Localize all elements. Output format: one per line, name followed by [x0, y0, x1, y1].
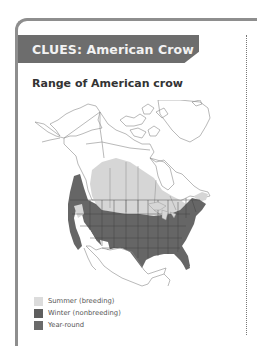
- legend-item-winter: Winter (nonbreeding): [34, 307, 121, 319]
- greenland-outline: [158, 100, 210, 142]
- range-map: [30, 100, 230, 290]
- banner-title: CLUES: American Crow: [32, 42, 194, 57]
- arctic-islands: [120, 104, 168, 138]
- legend-item-year-round: Year-round: [34, 319, 121, 331]
- legend-label: Summer (breeding): [48, 297, 114, 305]
- legend-label: Year-round: [48, 321, 84, 329]
- summer-swatch: [34, 297, 43, 306]
- map-legend: Summer (breeding) Winter (nonbreeding) Y…: [34, 295, 121, 331]
- legend-item-summer: Summer (breeding): [34, 295, 121, 307]
- map-title: Range of American crow: [32, 77, 183, 90]
- page: CLUES: American Crow Range of American c…: [0, 0, 257, 346]
- legend-label: Winter (nonbreeding): [48, 309, 121, 317]
- year-round-swatch: [34, 321, 43, 330]
- alaska-outline: [35, 104, 102, 138]
- dotted-divider: [246, 35, 247, 335]
- winter-swatch: [34, 309, 43, 318]
